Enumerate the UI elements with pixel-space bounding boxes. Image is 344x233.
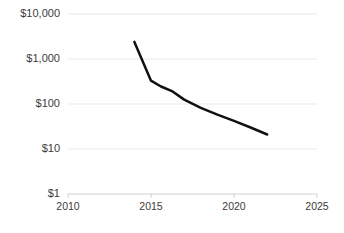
chart-container: $10,000 $1,000 $100 $10 $1 2010 2015 202…	[0, 0, 344, 233]
chart-plot-area	[0, 0, 344, 233]
gridlines-group	[68, 14, 317, 149]
series-line	[134, 42, 267, 135]
x-axis-ticks-group	[68, 194, 317, 198]
data-series-group	[134, 42, 267, 135]
